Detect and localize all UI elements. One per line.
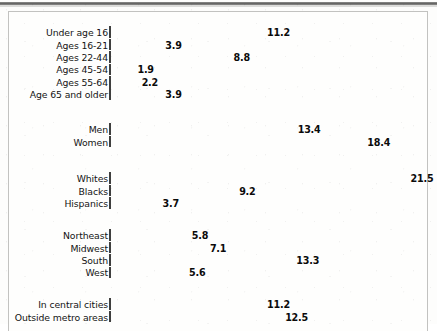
bar[interactable] (109, 311, 111, 323)
bar-category-label: Ages 55-64 (56, 76, 108, 87)
bar-group-race-ethnicity: Whites21.5Blacks9.2Hispanics3.7 (9, 172, 429, 209)
bar-category-label: Men (89, 124, 108, 135)
bar[interactable] (109, 39, 111, 51)
bar-value-label: 9.2 (239, 185, 255, 196)
bar[interactable] (109, 26, 111, 38)
bar-category-label: Northeast (63, 230, 108, 241)
bar-group-region: Northeast5.8Midwest7.1South13.3West5.6 (9, 229, 429, 279)
bar-category-label: Hispanics (64, 197, 108, 208)
bar[interactable] (109, 254, 111, 266)
bar-wrapper (109, 39, 163, 51)
bar-wrapper (109, 51, 232, 63)
bar-category-label: Ages 22-44 (56, 51, 108, 62)
bar-wrapper (109, 267, 187, 279)
bar[interactable] (109, 229, 111, 241)
bar-wrapper (109, 136, 365, 148)
bar-category-label: Blacks (79, 185, 108, 196)
bar-row: Blacks9.2 (9, 184, 429, 196)
bar-wrapper (109, 88, 163, 100)
bar-value-label: 7.1 (210, 242, 226, 253)
bar-row: Age 65 and older3.9 (9, 88, 429, 100)
bar-value-label: 5.6 (189, 267, 205, 278)
top-rule-shadow (0, 5, 437, 7)
bar-category-label: South (81, 254, 108, 265)
bar-row: South13.3 (9, 254, 429, 266)
bar-category-label: Midwest (70, 242, 108, 253)
bar-value-label: 1.9 (137, 64, 153, 75)
bar-value-label: 5.8 (192, 230, 208, 241)
bar-row: Northeast5.8 (9, 229, 429, 241)
bar-wrapper (109, 229, 190, 241)
bar-wrapper (109, 311, 283, 323)
bar-row: Midwest7.1 (9, 241, 429, 253)
bar-row: Ages 16-213.9 (9, 38, 429, 50)
bar[interactable] (109, 172, 111, 184)
bar-row: West5.6 (9, 266, 429, 278)
bar-category-label: In central cities (38, 299, 108, 310)
bar-category-label: Women (73, 136, 108, 147)
bar[interactable] (109, 51, 111, 63)
bar-row: Outside metro areas12.5 (9, 310, 429, 322)
bar[interactable] (109, 267, 111, 279)
bar-wrapper (109, 197, 161, 209)
bar-wrapper (109, 76, 140, 88)
bar-row: Ages 22-448.8 (9, 51, 429, 63)
bar-row: Ages 45-541.9 (9, 63, 429, 75)
bar-group-sex: Men13.4Women18.4 (9, 123, 429, 148)
bar[interactable] (109, 197, 111, 209)
chart-panel: Under age 1611.2Ages 16-213.9Ages 22-448… (8, 11, 428, 331)
bar-value-label: 13.4 (298, 124, 321, 135)
bar-row: Ages 55-642.2 (9, 76, 429, 88)
bar[interactable] (109, 123, 111, 135)
bar-row: Under age 1611.2 (9, 26, 429, 38)
bar-wrapper (109, 254, 294, 266)
bar-row: In central cities11.2 (9, 298, 429, 310)
bar-category-label: Age 65 and older (30, 89, 108, 100)
bar-value-label: 18.4 (367, 136, 390, 147)
bar-wrapper (109, 123, 296, 135)
bar-group-age: Under age 1611.2Ages 16-213.9Ages 22-448… (9, 26, 429, 100)
bar-value-label: 13.3 (296, 254, 319, 265)
bar-value-label: 11.2 (267, 27, 290, 38)
bar-row: Men13.4 (9, 123, 429, 135)
bar-value-label: 21.5 (410, 173, 433, 184)
bar-category-label: West (86, 267, 108, 278)
bar[interactable] (109, 185, 111, 197)
bar-value-label: 3.9 (165, 39, 181, 50)
bar-category-label: Ages 45-54 (56, 64, 108, 75)
bar-value-label: 3.7 (163, 197, 179, 208)
bar-row: Women18.4 (9, 135, 429, 147)
bar[interactable] (109, 64, 111, 76)
bar-category-label: Under age 16 (46, 27, 108, 38)
bar-chart-plot-area: Under age 1611.2Ages 16-213.9Ages 22-448… (9, 12, 429, 332)
bar-row: Whites21.5 (9, 172, 429, 184)
bar-wrapper (109, 298, 265, 310)
bar-value-label: 8.8 (234, 51, 250, 62)
bar[interactable] (109, 242, 111, 254)
bar-value-label: 11.2 (267, 299, 290, 310)
bar-value-label: 2.2 (142, 76, 158, 87)
bar-group-metro-location: In central cities11.2Outside metro areas… (9, 298, 429, 323)
bar-row: Hispanics3.7 (9, 197, 429, 209)
bar[interactable] (109, 76, 111, 88)
bar-wrapper (109, 242, 208, 254)
bar-category-label: Outside metro areas (15, 311, 108, 322)
bar[interactable] (109, 88, 111, 100)
bar-category-label: Whites (77, 173, 108, 184)
bar[interactable] (109, 298, 111, 310)
bar-wrapper (109, 64, 135, 76)
bar-wrapper (109, 172, 408, 184)
bar-value-label: 3.9 (165, 89, 181, 100)
bar-wrapper (109, 185, 237, 197)
bar-value-label: 12.5 (285, 311, 308, 322)
bar-category-label: Ages 16-21 (56, 39, 108, 50)
bar[interactable] (109, 136, 111, 148)
bar-wrapper (109, 26, 265, 38)
